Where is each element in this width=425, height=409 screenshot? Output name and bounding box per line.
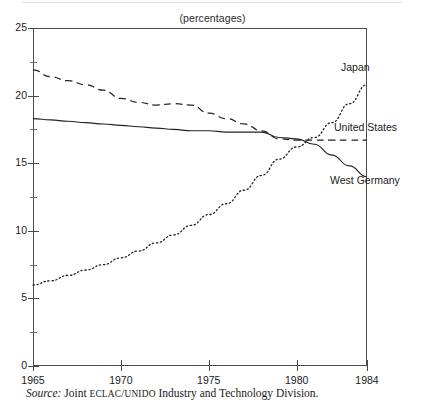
series-label-japan: Japan: [341, 61, 370, 73]
y-axis-label: 5: [0, 291, 27, 303]
chart-subtitle: (percentages): [0, 12, 425, 24]
plot-area: 2520151050 19651970197519801984: [33, 28, 367, 366]
source-org-unido: UNIDO: [124, 389, 155, 399]
y-axis-label: 15: [0, 156, 27, 168]
x-axis-label: 1965: [10, 374, 56, 386]
source-org-eclac: ECLAC: [89, 389, 121, 399]
source-note: Source: Joint ECLAC/UNIDO Industry and T…: [26, 387, 318, 399]
source-lead: Joint: [64, 387, 86, 399]
series-line-japan: [33, 85, 367, 285]
series-line-west-germany: [33, 119, 367, 177]
source-tail: Industry and Technology Division.: [159, 387, 319, 399]
y-axis-label: 20: [0, 89, 27, 101]
x-axis-label: 1970: [98, 374, 144, 386]
x-axis-label: 1980: [274, 374, 320, 386]
series-curves: [33, 28, 367, 366]
figure-line-chart: (percentages) 2520151050 196519701975198…: [0, 0, 425, 409]
y-axis-label: 0: [0, 359, 27, 371]
series-label-west-germany: West Germany: [330, 174, 400, 186]
x-axis-label: 1984: [344, 374, 390, 386]
x-axis-label: 1975: [186, 374, 232, 386]
series-label-united-states: United States: [334, 121, 397, 133]
page-top-rule: [22, 2, 402, 3]
x-tick-major: [367, 360, 368, 371]
y-axis-label: 10: [0, 224, 27, 236]
series-line-united-states: [33, 70, 367, 140]
source-prefix: Source:: [26, 387, 61, 399]
y-axis-label: 25: [0, 21, 27, 33]
